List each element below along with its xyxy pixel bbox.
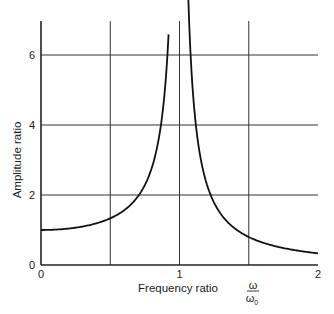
y-tick-label: 2 xyxy=(29,189,35,201)
y-tick-label: 6 xyxy=(29,49,35,61)
y-tick-labels: 0246 xyxy=(29,49,35,271)
response-curve-below-resonance xyxy=(41,34,169,230)
x-tick-label: 1 xyxy=(176,268,182,280)
x-axis-label: Frequency ratio xyxy=(138,282,218,294)
y-axis-label: Amplitude ratio xyxy=(11,122,23,199)
omega-numerator: ω xyxy=(249,279,258,291)
omega-denominator: ω0 xyxy=(246,292,259,306)
amplitude-ratio-chart: 0246 012 Amplitude ratio Frequency ratio… xyxy=(0,0,334,314)
x-tick-label: 0 xyxy=(38,268,44,280)
omega-ratio-symbol: ω ω0 xyxy=(246,279,259,306)
y-tick-label: 0 xyxy=(29,259,35,271)
y-tick-label: 4 xyxy=(29,119,35,131)
x-tick-labels: 012 xyxy=(38,268,321,280)
grid-lines xyxy=(41,21,318,265)
response-curve-above-resonance xyxy=(185,0,318,253)
x-tick-label: 2 xyxy=(315,268,321,280)
